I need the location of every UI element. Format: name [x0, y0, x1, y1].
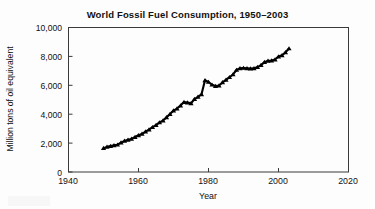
chart-figure: World Fossil Fuel Consumption, 1950–2003…: [0, 0, 375, 209]
y-tick-marks: [69, 28, 73, 173]
plot-area: [0, 0, 375, 209]
axes-frame: [69, 28, 349, 173]
x-tick-marks: [69, 168, 349, 172]
scan-artifact: [8, 196, 50, 206]
data-series-markers: [101, 46, 292, 150]
